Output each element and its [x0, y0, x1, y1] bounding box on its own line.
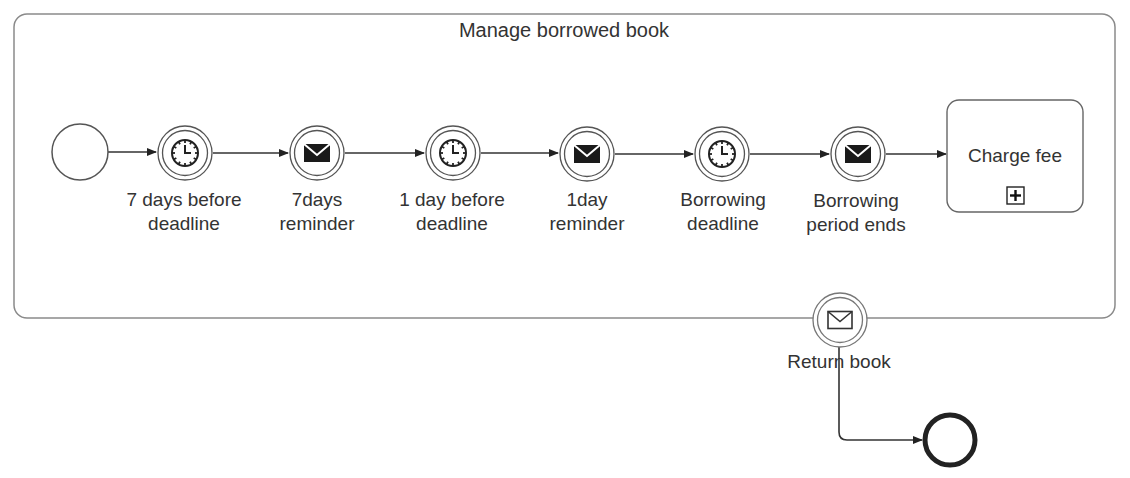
clock-icon — [709, 141, 735, 167]
message-event-7days-reminder[interactable] — [290, 126, 344, 180]
collapsed-subprocess-plus-icon[interactable] — [1007, 187, 1024, 204]
timer-event-7-days[interactable] — [158, 126, 212, 180]
boundary-message-event-return-book[interactable] — [813, 293, 867, 347]
message-event-1day-reminder[interactable] — [560, 127, 614, 181]
event-label-7days-reminder: 7days reminder — [280, 188, 355, 236]
label-line-2: deadline — [126, 212, 241, 236]
bpmn-diagram: Manage borrowed book 7 days before deadl… — [0, 0, 1130, 478]
event-label-1-day-before-deadline: 1 day before deadline — [399, 188, 505, 236]
envelope-filled-icon — [845, 145, 871, 163]
label-line-2: reminder — [280, 212, 355, 236]
clock-icon — [440, 140, 466, 166]
clock-icon — [172, 140, 198, 166]
label-line-1: Borrowing — [680, 188, 766, 212]
charge-fee-label: Charge fee — [968, 145, 1062, 167]
label-line-1: 1 day before — [399, 188, 505, 212]
label-line-1: Borrowing — [806, 189, 905, 213]
label-line-1: 1day — [550, 188, 625, 212]
return-book-label: Return book — [787, 350, 891, 374]
message-event-borrowing-period-ends[interactable] — [831, 127, 885, 181]
label-line-1: 7 days before — [126, 188, 241, 212]
label-line-2: reminder — [550, 212, 625, 236]
timer-event-borrowing-deadline[interactable] — [695, 127, 749, 181]
label-line-2: period ends — [806, 213, 905, 237]
label-line-2: deadline — [399, 212, 505, 236]
start-event[interactable] — [52, 124, 108, 180]
label-line-1: 7days — [280, 188, 355, 212]
timer-event-1-day[interactable] — [426, 126, 480, 180]
envelope-filled-icon — [304, 144, 330, 162]
label-line-2: deadline — [680, 212, 766, 236]
event-label-1day-reminder: 1day reminder — [550, 188, 625, 236]
event-label-7-days-before-deadline: 7 days before deadline — [126, 188, 241, 236]
event-label-borrowing-period-ends: Borrowing period ends — [806, 189, 905, 237]
diagram-canvas — [0, 0, 1130, 478]
envelope-open-icon — [828, 312, 852, 329]
envelope-filled-icon — [574, 145, 600, 163]
event-label-borrowing-deadline: Borrowing deadline — [680, 188, 766, 236]
end-event[interactable] — [925, 415, 975, 465]
subprocess-title: Manage borrowed book — [459, 19, 669, 42]
